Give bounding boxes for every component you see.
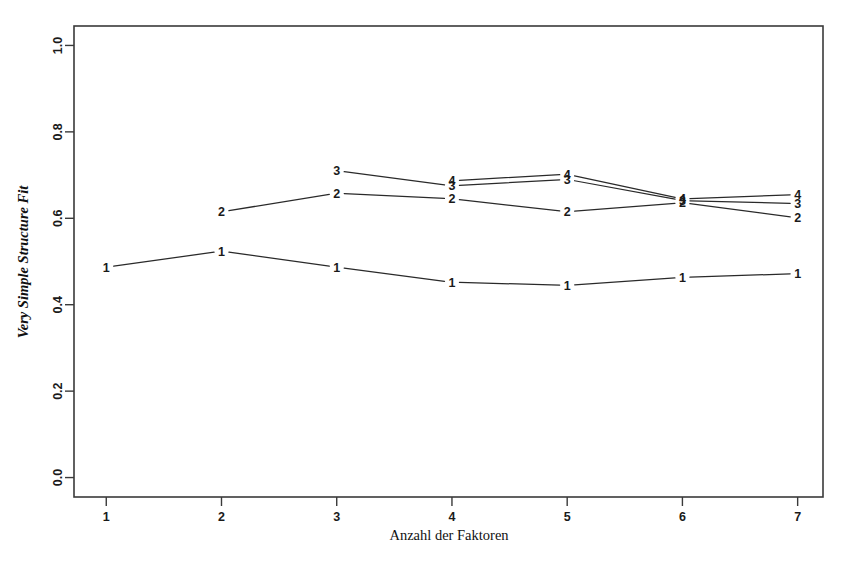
vss-line-chart: 12345670.00.20.40.60.81.0 11111112222223… [0,0,849,562]
y-tick-label: 1.0 [51,37,65,54]
y-tick-label: 0.2 [51,382,65,399]
series-segment [344,268,444,281]
y-tick-label: 0.6 [51,210,65,227]
series-segment [690,274,790,277]
data-point-marker: 2 [794,211,801,225]
series-segment [690,204,790,217]
x-tick-label: 3 [333,510,340,524]
data-point-marker: 1 [564,279,571,293]
series-segment [690,195,790,199]
series-segment [459,200,559,211]
series-segment [459,175,559,181]
axis-box [74,26,823,497]
data-point-marker: 1 [794,267,801,281]
data-point-marker: 4 [448,174,455,188]
data-point-marker: 3 [333,164,340,178]
series-segment [690,201,790,204]
x-tick-label: 7 [794,510,801,524]
y-tick-label: 0.0 [51,469,65,486]
series-segment [575,203,675,211]
series-segment [575,278,675,285]
tick-labels: 12345670.00.20.40.60.81.0 [51,37,801,524]
data-point-marker: 1 [218,245,225,259]
x-tick-label: 2 [218,510,225,524]
data-point-marker: 2 [448,192,455,206]
series-segment [575,176,676,197]
y-tick-label: 0.4 [51,296,65,313]
series-segment [459,282,559,285]
x-tick-label: 4 [448,510,455,524]
series-segment [575,181,675,199]
y-tick-label: 0.8 [51,123,65,140]
series-segment [459,180,559,186]
data-point-marker: 2 [218,205,225,219]
data-point-marker: 2 [564,205,571,219]
series-segment [344,194,444,199]
x-tick-label: 6 [679,510,686,524]
series-segment [229,252,329,266]
chart-figure: 12345670.00.20.40.60.81.0 11111112222223… [0,0,849,562]
x-axis-title: Anzahl der Faktoren [389,527,509,543]
series-segment [344,172,444,185]
data-point-markers: 1111111222222333334444 [103,164,801,293]
y-axis-title: Very Simple Structure Fit [15,185,31,339]
plot-frame [74,26,823,497]
x-tick-label: 1 [103,510,110,524]
data-point-marker: 1 [679,271,686,285]
data-point-marker: 4 [564,168,571,182]
data-point-marker: 2 [333,187,340,201]
x-tick-label: 5 [564,510,571,524]
data-point-marker: 4 [679,192,686,206]
data-point-marker: 1 [333,261,340,275]
data-point-marker: 1 [103,261,110,275]
data-point-marker: 4 [794,188,801,202]
series-segment [114,252,214,266]
data-point-marker: 1 [448,276,455,290]
series-segment [229,194,329,210]
tick-marks [65,45,798,506]
